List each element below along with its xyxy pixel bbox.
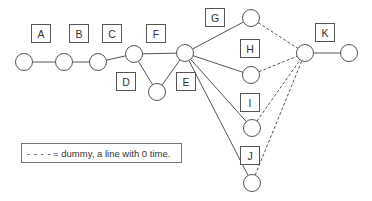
dummy-activity-edge — [258, 23, 298, 49]
activity-edge-f — [142, 53, 176, 54]
nodes-layer — [16, 10, 358, 192]
activity-label-h: H — [240, 39, 260, 58]
activity-label-b: B — [69, 24, 89, 43]
activity-label-i: I — [240, 93, 260, 112]
dummy-activity-edge — [257, 60, 300, 121]
legend-text: = dummy, a line with 0 time. — [53, 148, 170, 159]
activity-label-f: F — [146, 24, 166, 43]
activity-label-e: E — [176, 72, 196, 91]
event-node-n9 — [244, 120, 261, 137]
activity-label-k: K — [315, 23, 335, 42]
event-node-n10 — [244, 175, 261, 192]
activity-edge-i — [191, 59, 247, 121]
event-node-n3 — [90, 54, 107, 71]
event-node-n8 — [243, 67, 260, 84]
event-node-n1 — [16, 54, 33, 71]
activity-label-g: G — [205, 8, 225, 27]
dummy-line-symbol: - - - - — [27, 148, 51, 159]
event-node-n12 — [341, 45, 358, 62]
activity-edge-c — [106, 56, 125, 60]
event-node-n4 — [126, 46, 143, 63]
activity-label-d: D — [116, 72, 136, 91]
legend-box: - - - - = dummy, a line with 0 time. — [21, 143, 182, 163]
activity-label-a: A — [31, 24, 51, 43]
dummy-activity-edge — [255, 61, 302, 175]
event-node-n6 — [177, 45, 194, 62]
event-node-n7 — [243, 10, 260, 27]
event-node-n5 — [149, 84, 166, 101]
activity-label-c: C — [102, 24, 122, 43]
activity-edge-d — [138, 61, 152, 84]
event-node-n2 — [56, 54, 73, 71]
activity-label-j: J — [240, 146, 260, 165]
event-node-n11 — [297, 45, 314, 62]
dummy-activity-edge — [259, 56, 297, 72]
